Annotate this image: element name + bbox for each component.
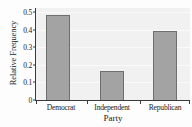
x-tick-label-independent: Independent (83, 103, 141, 112)
plot-area (36, 8, 190, 101)
x-axis-title: Party (36, 113, 190, 123)
bar-republican (153, 31, 177, 101)
x-axis-line (35, 100, 190, 101)
y-tick-label: 0.3 (10, 43, 32, 52)
bar-independent (100, 71, 124, 101)
x-tick-label-democrat: Democrat (32, 103, 90, 112)
x-tick-label-republican: Republican (136, 103, 192, 112)
y-tick-label: 0.4 (10, 25, 32, 34)
bar-democrat (46, 15, 70, 102)
y-tick-label: 0.2 (10, 60, 32, 69)
y-axis-line (35, 8, 36, 101)
y-tick-label: 0.1 (10, 78, 32, 87)
y-tick-label: 0.5 (10, 8, 32, 17)
y-axis-tick-labels: 0.5 0.4 0.3 0.2 0.1 0 (10, 0, 32, 127)
bar-chart-figure: Relative Frequency 0.5 0.4 0.3 0.2 0.1 0… (0, 0, 192, 127)
y-tick-label: 0 (10, 96, 32, 105)
gridline (36, 12, 190, 13)
